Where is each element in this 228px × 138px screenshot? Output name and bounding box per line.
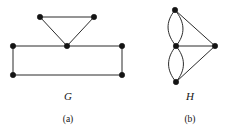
panel-label-a: (a): [50, 114, 86, 125]
edge-top-right-to-apex: [67, 17, 94, 46]
edge-top-left-to-apex: [40, 17, 67, 46]
panel-label-b: (b): [172, 114, 208, 125]
vertex-h-middle: [173, 43, 178, 48]
edge-h-top-middle-curve-left: [168, 10, 176, 46]
graph-label-g: G: [53, 90, 83, 102]
vertex-h-top: [172, 7, 177, 12]
edge-h-top-middle-curve-right: [175, 10, 183, 46]
vertex-g-rect-top-right: [119, 43, 124, 48]
graph-label-h: H: [175, 90, 205, 102]
vertex-h-right: [212, 43, 217, 48]
edge-h-top-to-right: [175, 10, 215, 46]
vertex-g-apex: [64, 43, 69, 48]
vertex-h-bottom: [173, 79, 178, 84]
vertex-g-rect-top-left: [10, 43, 15, 48]
vertex-g-rect-bot-right: [119, 72, 124, 77]
vertex-g-top-left: [37, 14, 42, 19]
edge-h-bottom-to-right: [176, 46, 215, 82]
vertex-g-top-right: [91, 14, 96, 19]
vertex-g-rect-bot-left: [10, 72, 15, 77]
edge-h-middle-bottom-curve-left: [169, 46, 177, 82]
figure-container: G H (a) (b): [0, 0, 228, 138]
